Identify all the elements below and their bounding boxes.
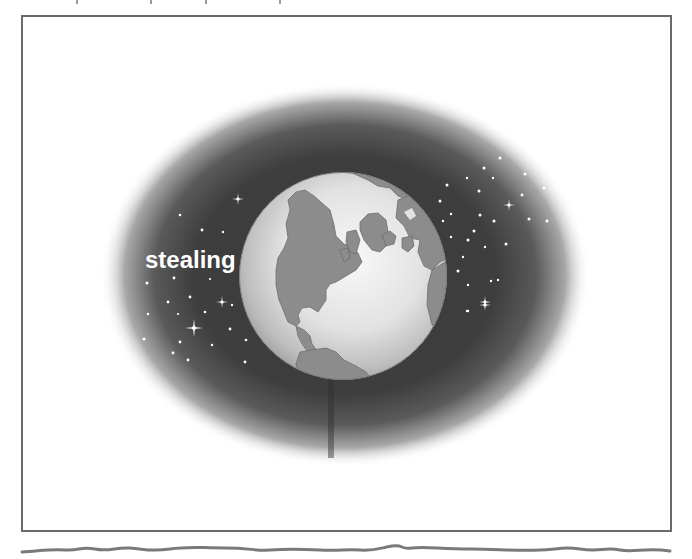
answer-writing-line (20, 542, 672, 558)
earth-in-space-illustration: stealing (0, 0, 692, 559)
stealing-label: stealing (145, 246, 236, 273)
